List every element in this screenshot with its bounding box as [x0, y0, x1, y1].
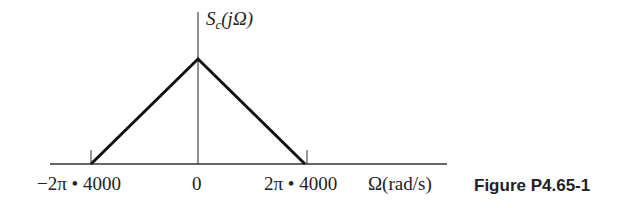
tick-label-left: −2π • 4000 [37, 173, 121, 194]
spectrum-figure: Sc(jΩ) −2π • 4000 0 2π • 4000 Ω(rad/s) F… [0, 0, 643, 208]
tick-label-zero: 0 [192, 173, 202, 194]
x-axis-label: Ω(rad/s) [368, 173, 432, 195]
y-axis-label: Sc(jΩ) [206, 8, 253, 32]
tick-label-right: 2π • 4000 [264, 173, 337, 194]
figure-caption: Figure P4.65-1 [474, 176, 590, 195]
